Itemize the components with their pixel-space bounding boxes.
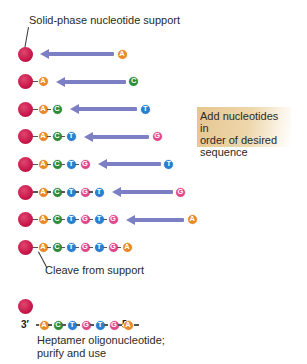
freed-support-bead: [18, 299, 33, 314]
incoming-nucleotide-T: T: [140, 104, 151, 115]
support-bead: [18, 47, 33, 62]
bond-link: [61, 136, 65, 137]
product-nucleotide-A: A: [123, 320, 134, 331]
incoming-nucleotide-A: A: [187, 214, 198, 225]
arrow-shaft: [78, 107, 137, 111]
bond-link: [47, 164, 51, 165]
arrow-shaft: [120, 190, 173, 194]
support-bead: [18, 157, 33, 172]
bond-link: [90, 324, 94, 325]
product-caption-line-1: Heptamer oligonucleotide;: [37, 334, 165, 346]
nucleotide-T: T: [66, 131, 77, 142]
nucleotide-G: G: [108, 214, 119, 225]
bond-link: [47, 247, 51, 248]
nucleotide-G: G: [80, 159, 91, 170]
arrow-shaft: [64, 80, 126, 84]
bond-link: [47, 219, 51, 220]
arrow-shaft: [134, 218, 184, 222]
bond-link: [48, 324, 52, 325]
arrow-shaft: [106, 162, 161, 166]
incoming-nucleotide-A: A: [117, 49, 128, 60]
support-bead: [18, 129, 33, 144]
instruction-line-1: Add nucleotides in: [200, 110, 288, 134]
product-caption-line-2: purify and use: [37, 347, 106, 359]
bond-link: [75, 164, 79, 165]
bond-link: [103, 219, 107, 220]
bond-link: [75, 191, 79, 192]
bond-link: [62, 324, 66, 325]
bond-link: [47, 136, 51, 137]
bond-link: [61, 164, 65, 165]
incoming-nucleotide-T: T: [163, 159, 174, 170]
bond-link: [89, 247, 93, 248]
bond-link: [76, 324, 80, 325]
nucleotide-T: T: [94, 187, 105, 198]
bond-link: [89, 219, 93, 220]
incoming-nucleotide-G: G: [152, 131, 163, 142]
three-prime-label: 3′: [21, 319, 29, 330]
incoming-nucleotide-G: G: [175, 187, 186, 198]
support-bead: [18, 74, 33, 89]
support-bead: [18, 102, 33, 117]
instruction-line-2: order of desired: [200, 134, 288, 146]
bond-link: [134, 324, 139, 325]
incoming-nucleotide-C: C: [128, 76, 139, 87]
bond-link: [61, 247, 65, 248]
bond-link: [75, 219, 79, 220]
bond-link: [103, 247, 107, 248]
support-leader-line: [24, 27, 29, 48]
bond-link: [47, 109, 51, 110]
support-label: Solid-phase nucleotide support: [29, 14, 180, 26]
nucleotide-C: C: [52, 104, 63, 115]
arrow-shaft: [92, 135, 149, 139]
bond-link: [61, 219, 65, 220]
support-bead: [18, 240, 33, 255]
bond-link: [47, 191, 51, 192]
instruction-box: Add nucleotides in order of desired sequ…: [197, 107, 291, 147]
bond-link: [104, 324, 108, 325]
bond-link: [89, 191, 93, 192]
arrow-shaft: [48, 52, 114, 56]
nucleotide-A: A: [122, 242, 133, 253]
support-bead: [18, 212, 33, 227]
bond-link: [117, 247, 121, 248]
support-bead: [18, 185, 33, 200]
bond-link: [118, 324, 122, 325]
bond-link: [61, 191, 65, 192]
bond-link: [75, 247, 79, 248]
cleave-label: Cleave from support: [45, 264, 144, 276]
nucleotide-A: A: [38, 76, 49, 87]
instruction-line-3: sequence: [200, 146, 288, 158]
